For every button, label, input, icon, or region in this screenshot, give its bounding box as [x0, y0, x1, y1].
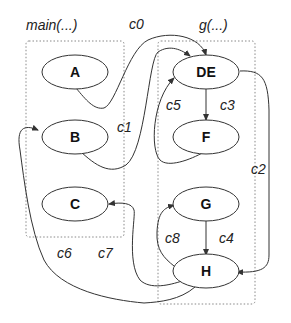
node-B-label: B [70, 129, 80, 145]
node-G: G [173, 187, 239, 221]
edge-c0-label: c0 [129, 16, 144, 32]
node-G-label: G [201, 196, 212, 212]
node-A: A [42, 55, 108, 89]
node-H: H [173, 254, 239, 288]
group-g-label: g(...) [199, 17, 228, 33]
edge-c5-label: c5 [166, 97, 181, 113]
edge-c1-label: c1 [117, 119, 132, 135]
node-C-label: C [70, 196, 80, 212]
node-F-label: F [202, 129, 211, 145]
node-F: F [173, 120, 239, 154]
node-C: C [42, 187, 108, 221]
node-A-label: A [70, 64, 80, 80]
group-main-label: main(...) [26, 17, 77, 33]
node-H-label: H [201, 263, 211, 279]
edge-c6 [19, 127, 195, 303]
node-DE-label: DE [196, 64, 215, 80]
edge-c4-label: c4 [219, 230, 234, 246]
edge-c3-label: c3 [220, 97, 235, 113]
edge-c6-label: c6 [57, 245, 72, 261]
node-DE: DE [173, 55, 239, 89]
edge-c2-label: c2 [251, 161, 266, 177]
edge-c7-label: c7 [98, 245, 114, 261]
call-graph-diagram: main(...) g(...) c0 c1 c2 c3 c5 c4 c8 c6… [0, 0, 291, 323]
edge-c8-label: c8 [165, 230, 180, 246]
node-B: B [42, 120, 108, 154]
